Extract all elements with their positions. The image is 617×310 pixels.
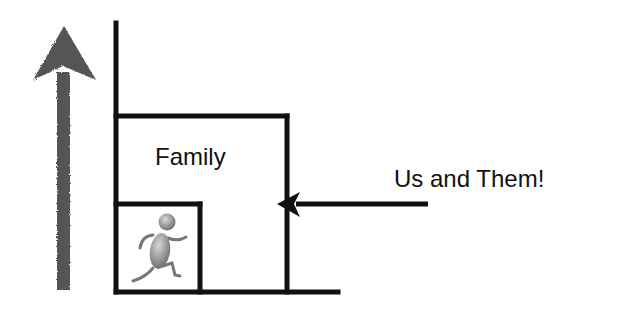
family-label: Family xyxy=(155,143,226,171)
us-and-them-label: Us and Them! xyxy=(394,165,544,193)
inward-arrow-icon xyxy=(277,192,428,217)
outer-wall xyxy=(116,23,338,292)
up-arrow-icon xyxy=(33,26,96,290)
diagram-canvas xyxy=(0,0,617,310)
running-person-icon xyxy=(133,214,186,282)
